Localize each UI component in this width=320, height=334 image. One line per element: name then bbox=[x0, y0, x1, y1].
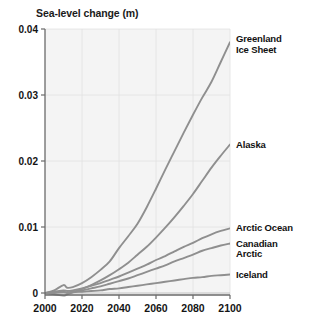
y-tick-label: 0 bbox=[32, 288, 38, 299]
y-tick-label: 0.02 bbox=[19, 156, 39, 167]
x-tick-label: 2000 bbox=[33, 302, 57, 314]
series-label-alaska: Alaska bbox=[236, 140, 266, 151]
x-tick-label: 2020 bbox=[70, 302, 94, 314]
x-tick-label: 2100 bbox=[218, 302, 242, 314]
y-tick-label: 0.03 bbox=[19, 90, 39, 101]
x-axis-ticks: 200020202040206020802100 bbox=[33, 295, 242, 314]
y-tick-label: 0.01 bbox=[19, 222, 39, 233]
x-tick-label: 2060 bbox=[144, 302, 168, 314]
x-tick-label: 2040 bbox=[107, 302, 131, 314]
series-label-arctic-ocean: Arctic Ocean bbox=[236, 223, 293, 234]
y-tick-label: 0.04 bbox=[19, 24, 39, 35]
sea-level-change-chart: Sea-level change (m) 00.010.020.030.04 2… bbox=[0, 0, 320, 334]
series-label-iceland: Iceland bbox=[236, 270, 268, 281]
series-label-greenland-ice-sheet: Greenland Ice Sheet bbox=[236, 34, 282, 55]
series-label-canadian-arctic: Canadian Arctic bbox=[236, 239, 278, 260]
x-tick-label: 2080 bbox=[181, 302, 205, 314]
y-axis-ticks: 00.010.020.030.04 bbox=[19, 24, 45, 299]
